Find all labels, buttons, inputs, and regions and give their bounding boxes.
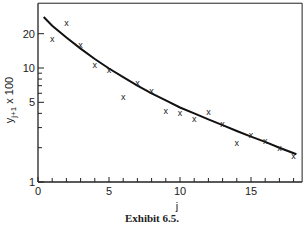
data-point-marker: x (249, 130, 254, 140)
chart: 051015 151020 xxxxxxxxxxxxxxxxxx yj+1 x … (0, 0, 304, 233)
data-point-marker: x (50, 34, 55, 44)
data-point-marker: x (78, 40, 83, 50)
data-point-marker: x (206, 107, 211, 117)
data-point-marker: x (235, 138, 240, 148)
fitted-curve (44, 17, 297, 154)
data-point-marker: x (135, 78, 140, 88)
data-point-marker: x (107, 65, 112, 75)
x-axis-ticks: 051015 (35, 177, 294, 197)
data-point-marker: x (178, 108, 183, 118)
axes (38, 3, 302, 182)
data-point-marker: x (291, 151, 296, 161)
y-tick-label: 5 (29, 96, 35, 108)
data-point-marker: x (121, 92, 126, 102)
x-axis-label: j (175, 200, 178, 212)
y-tick-label: 10 (23, 62, 35, 74)
figure-caption: Exhibit 6.5. (0, 212, 304, 224)
data-point-marker: x (263, 136, 268, 146)
data-point-marker: x (64, 18, 69, 28)
data-point-marker: x (220, 119, 225, 129)
x-tick-label: 0 (35, 185, 41, 197)
x-tick-label: 15 (245, 185, 257, 197)
y-tick-label: 1 (29, 176, 35, 188)
data-point-marker: x (192, 114, 197, 124)
data-point-marker: x (164, 106, 169, 116)
data-point-marker: x (149, 86, 154, 96)
x-tick-label: 10 (174, 185, 186, 197)
y-axis-ticks: 151020 (23, 28, 44, 188)
x-tick-label: 5 (106, 185, 112, 197)
y-tick-label: 20 (23, 28, 35, 40)
y-axis-label: yj+1 x 100 (3, 77, 18, 123)
data-point-marker: x (93, 60, 98, 70)
data-point-marker: x (277, 143, 282, 153)
